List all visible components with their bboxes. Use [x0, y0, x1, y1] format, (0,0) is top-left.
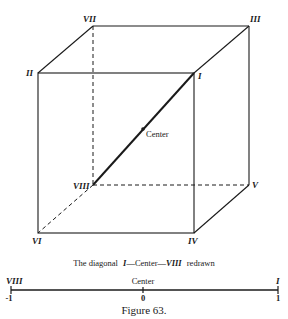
vertex-label-III: III [249, 14, 261, 24]
edge-IV-V [194, 185, 249, 233]
vertex-label-II: II [25, 68, 34, 78]
vertex-label-VI: VI [32, 236, 42, 246]
vertex-label-I: I [197, 71, 202, 81]
front-face [38, 73, 194, 233]
axis-center-label: Center [132, 276, 155, 286]
center-point [141, 127, 145, 131]
center-label: Center [146, 129, 169, 139]
tick-label-minus-one: -1 [5, 293, 12, 303]
edge-VIII-VI [38, 185, 93, 233]
edge-II-VII [38, 26, 93, 73]
axis-right-vertex: I [275, 276, 280, 286]
cube-diagram: VII III II I Center VIII V VI IV The dia… [0, 0, 288, 319]
tick-label-one: 1 [276, 293, 280, 303]
vertex-label-IV: IV [187, 236, 199, 246]
figure-caption: Figure 63. [121, 304, 166, 316]
vertex-label-VIII: VIII [73, 181, 90, 191]
tick-label-zero: 0 [141, 293, 145, 303]
number-line: VIII Center I -1 0 1 [5, 276, 280, 303]
edge-I-III [194, 26, 249, 73]
axis-left-vertex: VIII [6, 276, 23, 286]
vertex-label-V: V [252, 180, 259, 190]
vertex-label-VII: VII [83, 14, 97, 24]
diagonal-subtitle: The diagonal I—Center—VIII redrawn [73, 258, 215, 268]
